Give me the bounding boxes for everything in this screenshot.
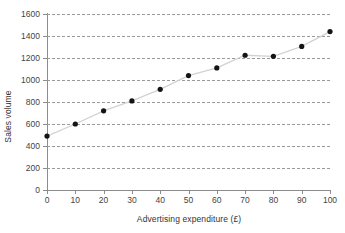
data-point: [299, 44, 304, 49]
y-tick-label-400: 400: [0, 142, 40, 151]
y-tick-label-600: 600: [0, 120, 40, 129]
data-point: [186, 73, 191, 78]
x-tick-label-50: 50: [174, 196, 204, 205]
x-tick-mark-50: [189, 190, 190, 194]
x-tick-mark-0: [47, 190, 48, 194]
x-tick-label-80: 80: [258, 196, 288, 205]
data-point: [101, 108, 106, 113]
x-tick-label-0: 0: [32, 196, 62, 205]
y-tick-label-200: 200: [0, 164, 40, 173]
data-point: [73, 121, 78, 126]
x-tick-label-20: 20: [89, 196, 119, 205]
trend-line: [47, 32, 330, 137]
data-point: [44, 134, 49, 139]
y-tick-label-0: 0: [0, 186, 40, 195]
data-point: [271, 54, 276, 59]
x-tick-label-60: 60: [202, 196, 232, 205]
data-point: [214, 65, 219, 70]
x-tick-label-90: 90: [287, 196, 317, 205]
x-tick-mark-10: [75, 190, 76, 194]
y-tick-label-1400: 1400: [0, 32, 40, 41]
x-tick-mark-70: [245, 190, 246, 194]
data-point-markers: [44, 29, 332, 139]
data-point: [129, 98, 134, 103]
y-tick-label-800: 800: [0, 98, 40, 107]
y-tick-label-1000: 1000: [0, 76, 40, 85]
x-axis-title: Advertising expenditure (£): [40, 214, 338, 224]
x-tick-label-70: 70: [230, 196, 260, 205]
x-tick-mark-60: [217, 190, 218, 194]
y-tick-label-1200: 1200: [0, 54, 40, 63]
x-tick-mark-80: [273, 190, 274, 194]
x-tick-label-40: 40: [145, 196, 175, 205]
x-tick-mark-20: [104, 190, 105, 194]
x-tick-label-30: 30: [117, 196, 147, 205]
sales-vs-advertising-scatter-chart: Sales volume 020040060080010001200140016…: [0, 0, 345, 233]
x-tick-mark-40: [160, 190, 161, 194]
x-tick-label-10: 10: [60, 196, 90, 205]
plot-area: [47, 14, 330, 190]
x-tick-mark-30: [132, 190, 133, 194]
x-tick-label-100: 100: [315, 196, 345, 205]
y-tick-label-1600: 1600: [0, 10, 40, 19]
data-point: [243, 53, 248, 58]
x-tick-mark-100: [330, 190, 331, 194]
data-point: [158, 87, 163, 92]
data-point: [327, 29, 332, 34]
data-series-layer: [47, 14, 330, 190]
x-tick-mark-90: [302, 190, 303, 194]
